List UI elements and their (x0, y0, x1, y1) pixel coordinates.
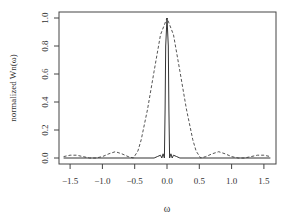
x-tick-label: −1.0 (94, 176, 111, 186)
y-tick-label: 0.6 (40, 68, 50, 80)
y-tick-label: 0.8 (40, 40, 50, 52)
x-tick-label: −0.5 (127, 176, 144, 186)
x-axis: −1.5−1.0−0.50.00.51.01.5 (62, 164, 270, 186)
y-axis-label: normalized Wn(ω) (8, 54, 18, 121)
chart: 0.00.20.40.60.81.0 −1.5−1.0−0.50.00.51.0… (0, 0, 291, 222)
y-tick-label: 1.0 (40, 12, 50, 24)
y-tick-label: 0.2 (40, 124, 50, 135)
x-tick-label: 0.0 (161, 176, 173, 186)
y-tick-label: 0.0 (40, 152, 50, 164)
x-tick-label: 0.5 (194, 176, 206, 186)
x-tick-label: 1.0 (226, 176, 238, 186)
y-tick-label: 0.4 (40, 96, 50, 108)
dashed-series-line (64, 18, 271, 158)
x-tick-label: 1.5 (258, 176, 270, 186)
x-axis-label: ω (164, 203, 171, 214)
y-axis: 0.00.20.40.60.81.0 (40, 12, 59, 164)
solid-series-line (64, 18, 271, 158)
x-tick-label: −1.5 (62, 176, 79, 186)
